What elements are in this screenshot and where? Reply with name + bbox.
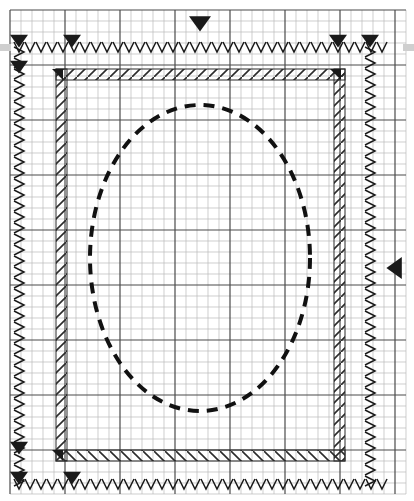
right-scroll-handle[interactable] bbox=[403, 44, 414, 51]
bottom-hatch-band[interactable] bbox=[56, 450, 345, 461]
left-scroll-handle[interactable] bbox=[0, 44, 11, 51]
mesh-boundary-canvas[interactable] bbox=[0, 0, 414, 501]
top-hatch-band[interactable] bbox=[56, 69, 345, 80]
right-hatch-band[interactable] bbox=[334, 69, 345, 461]
scene-svg[interactable] bbox=[0, 0, 414, 501]
left-hatch-band[interactable] bbox=[56, 69, 67, 461]
